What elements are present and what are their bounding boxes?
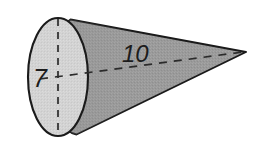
radius-label: 7: [33, 64, 48, 92]
cone-figure: 7 10: [0, 0, 259, 145]
cone-svg: 7 10: [0, 0, 259, 145]
slant-label: 10: [122, 40, 149, 67]
